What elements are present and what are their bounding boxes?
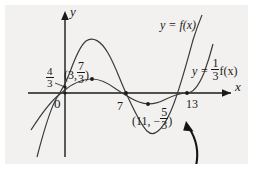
curve-one-third-fx-prefix: y = — [192, 64, 211, 78]
local-min-numerator: 5 — [160, 106, 168, 118]
curve-one-third-fx-label: y = 13f(x) — [192, 57, 237, 82]
axes-group — [28, 14, 231, 157]
local-min-denominator: 3 — [160, 118, 168, 131]
y-intercept-denominator: 3 — [46, 77, 54, 89]
local-max-numerator: 7 — [77, 60, 85, 72]
graph-figure: y x 0 4 3 y = f(x) y = 13f(x) (3, 73) (1… — [0, 0, 253, 169]
point-root-zero — [63, 91, 66, 94]
local-min-fraction: 53 — [160, 106, 168, 131]
local-max-open: (3, — [64, 69, 77, 81]
curve-one-third-f-x — [31, 44, 213, 130]
curve-one-third-fx-suffix: f(x) — [219, 64, 237, 78]
local-max-denominator: 3 — [77, 72, 85, 85]
local-max-close: ) — [85, 69, 89, 81]
y-axis-label: y — [70, 5, 76, 18]
x-tick-label-seven: 7 — [117, 100, 123, 112]
y-axis-arrowhead — [61, 11, 69, 20]
annotation-arrow — [189, 128, 197, 166]
annotation-arrow-shaft — [189, 128, 197, 166]
point-root-thirteen — [185, 91, 189, 95]
local-max-fraction: 73 — [77, 60, 85, 85]
y-intercept-label: 4 3 — [46, 66, 54, 89]
y-intercept-fraction: 4 3 — [46, 66, 54, 89]
local-min-point-label: (11, −53) — [132, 106, 172, 131]
curve-fx-label: y = f(x) — [160, 19, 196, 31]
local-max-point-label: (3, 73) — [64, 60, 89, 85]
x-tick-label-thirteen: 13 — [186, 98, 198, 110]
local-min-open: (11, − — [132, 115, 160, 127]
annotation-arrow-head — [183, 121, 193, 132]
graph-canvas — [0, 0, 253, 169]
local-min-close: ) — [168, 115, 172, 127]
x-axis-arrowhead — [222, 89, 231, 97]
point-local-max — [90, 77, 94, 81]
point-root-seven — [124, 91, 128, 95]
origin-label: 0 — [54, 97, 61, 110]
y-intercept-numerator: 4 — [46, 66, 54, 77]
